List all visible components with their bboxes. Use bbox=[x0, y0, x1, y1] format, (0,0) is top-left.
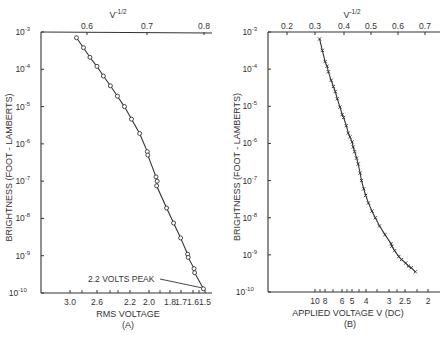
annotation-arrow bbox=[160, 279, 201, 288]
y-tick-label: 10-6 bbox=[242, 137, 257, 148]
data-curve bbox=[320, 39, 416, 272]
y-tick-label: 10-4 bbox=[242, 63, 257, 74]
y-tick-label: 10-3 bbox=[15, 26, 30, 37]
bottom-tick-label: 10 bbox=[310, 296, 320, 306]
bottom-tick-label: 3 bbox=[387, 296, 392, 306]
data-point-x bbox=[383, 233, 386, 236]
top-tick-label: 0.7 bbox=[419, 21, 431, 31]
data-point-circle bbox=[122, 105, 126, 109]
y-tick-label: 10-5 bbox=[242, 100, 257, 111]
top-tick-label: 0.3 bbox=[309, 21, 321, 31]
top-tick-label: 0.8 bbox=[198, 21, 210, 31]
bottom-tick-label: 1.6 bbox=[187, 297, 199, 307]
bottom-tick-label: 6 bbox=[340, 296, 345, 306]
data-point-circle bbox=[101, 74, 105, 78]
data-point-circle bbox=[172, 221, 176, 225]
bottom-tick-label: 1.7 bbox=[175, 297, 187, 307]
top-tick-label: 0.4 bbox=[338, 21, 350, 31]
data-point-circle bbox=[186, 255, 190, 259]
y-tick-label: 10-9 bbox=[242, 249, 257, 260]
y-tick-label: 10-10 bbox=[236, 286, 255, 297]
bottom-tick-label: 2.0 bbox=[143, 297, 155, 307]
data-point-circle bbox=[129, 117, 133, 121]
y-tick-label: 10-10 bbox=[9, 287, 28, 298]
bottom-tick-label: 2.5 bbox=[399, 296, 411, 306]
top-tick-label: 0.2 bbox=[281, 21, 293, 31]
top-tick-label: 0.7 bbox=[141, 21, 153, 31]
data-point-circle bbox=[146, 153, 150, 157]
bottom-tick-label: 8 bbox=[323, 296, 328, 306]
top-tick-label: 0.6 bbox=[81, 21, 93, 31]
data-point-circle bbox=[88, 55, 92, 59]
y-tick-label: 10-4 bbox=[15, 63, 30, 74]
data-point-circle bbox=[74, 36, 78, 40]
data-point-circle bbox=[155, 179, 159, 183]
top-tick-label: 0.5 bbox=[365, 21, 377, 31]
bottom-tick-label: 2 bbox=[426, 296, 431, 306]
data-point-circle bbox=[95, 64, 99, 68]
panel-caption: (A) bbox=[122, 320, 134, 330]
annotation-label: 2.2 VOLTS PEAK bbox=[88, 274, 155, 284]
data-point-circle bbox=[201, 287, 205, 291]
y-tick-label: 10-6 bbox=[15, 138, 30, 149]
y-tick-label: 10-9 bbox=[15, 250, 30, 261]
bottom-tick-label: 5 bbox=[350, 296, 355, 306]
data-point-x bbox=[407, 264, 410, 267]
data-point-circle bbox=[193, 271, 197, 275]
y-tick-label: 10-3 bbox=[242, 26, 257, 37]
y-tick-label: 10-7 bbox=[242, 175, 257, 186]
data-point-x bbox=[400, 258, 403, 261]
panel-caption: (B) bbox=[344, 319, 356, 329]
data-point-circle bbox=[154, 175, 158, 179]
y-tick-label: 10-5 bbox=[15, 101, 30, 112]
data-point-circle bbox=[138, 131, 142, 135]
x-axis-top bbox=[41, 32, 212, 33]
data-point-circle bbox=[165, 206, 169, 210]
data-curve bbox=[77, 38, 204, 289]
data-point-circle bbox=[115, 94, 119, 98]
bottom-tick-label: 1.5 bbox=[199, 297, 211, 307]
top-axis-label: V-1/2 bbox=[343, 8, 361, 20]
y-axis-label: BRIGHTNESS (FOOT - LAMBERTS) bbox=[4, 93, 14, 241]
data-point-x bbox=[404, 261, 407, 264]
data-point-x bbox=[397, 255, 400, 258]
y-axis-label: BRIGHTNESS (FOOT - LAMBERTS) bbox=[232, 93, 242, 241]
y-tick-label: 10-7 bbox=[15, 175, 30, 186]
data-point-x bbox=[410, 266, 413, 269]
bottom-tick-label: 4 bbox=[364, 296, 369, 306]
top-tick-label: 0.6 bbox=[392, 21, 404, 31]
figure: 10-310-410-510-610-710-810-910-100.60.70… bbox=[0, 0, 448, 337]
data-point-circle bbox=[155, 184, 159, 188]
bottom-tick-label: 2.6 bbox=[91, 297, 103, 307]
data-point-circle bbox=[81, 46, 85, 50]
x-axis-label: APPLIED VOLTAGE V (DC) bbox=[292, 308, 404, 318]
chart-panel-b: 10-310-410-510-610-710-810-910-100.20.30… bbox=[232, 8, 440, 329]
data-point-x bbox=[393, 249, 396, 252]
x-axis-label: RMS VOLTAGE bbox=[96, 309, 160, 319]
data-point-x bbox=[414, 270, 417, 273]
data-point-circle bbox=[108, 84, 112, 88]
chart-panel-a: 10-310-410-510-610-710-810-910-100.60.70… bbox=[4, 8, 212, 330]
y-tick-label: 10-8 bbox=[15, 212, 30, 223]
y-tick-label: 10-8 bbox=[242, 212, 257, 223]
top-axis-label: V-1/2 bbox=[109, 8, 127, 20]
data-point-circle bbox=[179, 236, 183, 240]
bottom-tick-label: 2.2 bbox=[124, 297, 136, 307]
data-point-circle bbox=[192, 267, 196, 271]
bottom-tick-label: 3.0 bbox=[64, 297, 76, 307]
